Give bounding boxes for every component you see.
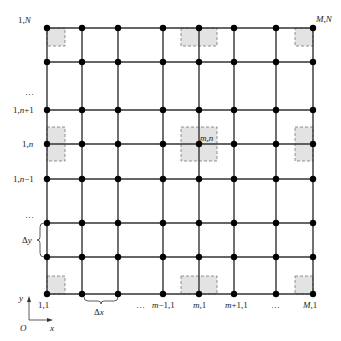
grid-node [79, 220, 85, 226]
label-m-n: m,n [200, 133, 214, 143]
label-M-1: M,1 [302, 300, 317, 310]
grid-node [231, 176, 237, 182]
label-ellipsis-bottom-right: … [271, 300, 280, 310]
grid-node [160, 254, 166, 260]
label-m-1: m,1 [193, 300, 206, 310]
grid-node [310, 291, 316, 297]
grid-node [160, 220, 166, 226]
grid-node [115, 176, 121, 182]
grid-node [44, 25, 50, 31]
grid-node [44, 254, 50, 260]
grid-node [231, 141, 237, 147]
grid-node [231, 25, 237, 31]
grid-node [160, 59, 166, 65]
grid-node [160, 25, 166, 31]
grid-node [231, 107, 237, 113]
label-dy: Δy [22, 235, 32, 245]
grid-node [273, 176, 279, 182]
cell-top-right [295, 28, 313, 46]
label-M-N: M,N [315, 14, 333, 24]
grid-node [231, 220, 237, 226]
grid-diagram: 1,N M,N … 1,n+1 1,n 1,n−1 … m,n Δy Δx 1,… [0, 0, 341, 341]
grid-node [310, 59, 316, 65]
grid-node [273, 25, 279, 31]
grid-node [231, 59, 237, 65]
label-1-N: 1,N [18, 15, 32, 25]
grid-node [115, 220, 121, 226]
cell-bottom-left [47, 276, 65, 294]
coordinate-axes: y x O [18, 293, 54, 333]
label-ellipsis-bottom-left: … [136, 300, 145, 310]
grid-node [79, 141, 85, 147]
grid-node [160, 176, 166, 182]
grid-node [79, 291, 85, 297]
axis-origin-label: O [20, 323, 27, 333]
grid-node [196, 220, 202, 226]
grid-node [79, 59, 85, 65]
control-volumes [47, 28, 313, 294]
grid-node [115, 25, 121, 31]
grid-node [79, 107, 85, 113]
dx-brace [84, 297, 118, 304]
grid-node [196, 291, 202, 297]
cell-top-left [47, 28, 65, 46]
grid-node [196, 25, 202, 31]
grid-node [160, 291, 166, 297]
axis-y-label: y [18, 293, 23, 303]
grid-node [273, 141, 279, 147]
grid-node [115, 141, 121, 147]
grid-node [79, 176, 85, 182]
grid-node [231, 291, 237, 297]
dy-brace [37, 223, 44, 257]
label-ellipsis-upper: … [25, 87, 34, 97]
grid-node [44, 220, 50, 226]
grid-node [231, 254, 237, 260]
grid-node [115, 59, 121, 65]
grid-node [44, 141, 50, 147]
grid-node [115, 291, 121, 297]
grid-node [273, 220, 279, 226]
grid-node [273, 107, 279, 113]
label-1-1: 1,1 [38, 300, 49, 310]
label-1-n: 1,n [22, 139, 34, 149]
grid-node [160, 141, 166, 147]
grid-node [79, 25, 85, 31]
grid-node [79, 254, 85, 260]
grid-node [115, 254, 121, 260]
label-1-n-plus-1: 1,n+1 [13, 105, 34, 115]
grid-node [273, 59, 279, 65]
grid-node [273, 291, 279, 297]
label-m-plus-1-1: m+1,1 [225, 300, 248, 310]
grid-node [196, 254, 202, 260]
grid-node [44, 59, 50, 65]
grid-node [310, 220, 316, 226]
axis-x-label: x [49, 323, 54, 333]
grid-node [115, 107, 121, 113]
label-m-minus-1-1: m−1,1 [152, 300, 175, 310]
grid-node [44, 107, 50, 113]
label-ellipsis-lower: … [25, 210, 34, 220]
grid-node [273, 254, 279, 260]
grid-node [196, 59, 202, 65]
grid-node [310, 254, 316, 260]
grid-node [196, 176, 202, 182]
label-dx: Δx [94, 307, 104, 317]
label-1-n-minus-1: 1,n−1 [13, 174, 34, 184]
grid-node [196, 107, 202, 113]
grid-node [310, 25, 316, 31]
cell-bottom-right [295, 276, 313, 294]
grid-node [310, 107, 316, 113]
grid-node [310, 141, 316, 147]
grid-node [44, 176, 50, 182]
grid-lines [47, 28, 313, 294]
grid-node [160, 107, 166, 113]
grid-node [44, 291, 50, 297]
grid-node [310, 176, 316, 182]
